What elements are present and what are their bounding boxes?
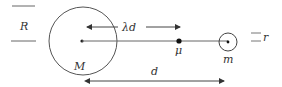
label-r: r xyxy=(263,31,269,44)
label-lambda-d: λd xyxy=(121,21,136,34)
label-R: R xyxy=(19,20,28,33)
radius-R-indicator: R xyxy=(11,6,36,41)
label-d: d xyxy=(151,65,158,78)
mu-point xyxy=(176,38,181,43)
label-mu: μ xyxy=(175,44,182,57)
label-m: m xyxy=(223,53,233,66)
small-body-center xyxy=(227,41,230,44)
label-M: M xyxy=(73,60,86,73)
radius-r-indicator: r xyxy=(251,31,269,44)
two-body-diagram: R M λd μ m r d xyxy=(0,0,282,87)
